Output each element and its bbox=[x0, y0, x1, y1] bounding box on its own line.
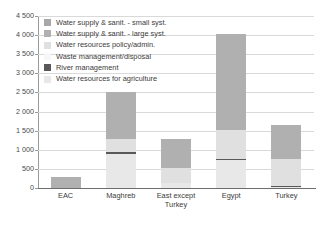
y-axis-tick-label: 3 500 bbox=[0, 50, 34, 57]
stacked-bar-chart: 05001 0001 5002 0002 5003 0003 5004 0004… bbox=[0, 0, 329, 225]
chart-legend: Water supply & sanit. - small syst.Water… bbox=[44, 17, 167, 85]
legend-item-label: Water supply & sanit. - large syst. bbox=[56, 30, 166, 38]
y-axis-tick-label: 2 500 bbox=[0, 88, 34, 95]
y-axis-tick-label: 3 000 bbox=[0, 69, 34, 76]
legend-swatch-icon bbox=[44, 53, 51, 60]
y-axis-tick-label: 1 000 bbox=[0, 146, 34, 153]
legend-item-label: Water resources policy/admin. bbox=[56, 41, 155, 49]
x-axis-category-label: East exceptTurkey bbox=[148, 191, 203, 209]
bar-segment bbox=[106, 139, 136, 151]
legend-item-label: Water resources for agriculture bbox=[56, 75, 157, 83]
y-axis-tick-label: 4 500 bbox=[0, 12, 34, 19]
bar-stack[interactable] bbox=[216, 16, 246, 188]
bar-segment bbox=[216, 130, 246, 159]
x-axis-category-label: Egypt bbox=[204, 191, 259, 200]
bar-segment bbox=[106, 92, 136, 139]
legend-item[interactable]: River management bbox=[44, 62, 167, 73]
x-axis-label-line: Maghreb bbox=[93, 191, 148, 200]
y-axis-labels: 05001 0001 5002 0002 5003 0003 5004 0004… bbox=[0, 16, 34, 188]
bar-stack[interactable] bbox=[271, 16, 301, 188]
bar-group bbox=[259, 16, 314, 188]
y-axis-tick-label: 0 bbox=[0, 184, 34, 191]
x-axis-label-line: EAC bbox=[38, 191, 93, 200]
x-axis-label-line: East except bbox=[148, 191, 203, 200]
x-axis-label-line: Egypt bbox=[204, 191, 259, 200]
legend-swatch-icon bbox=[44, 76, 51, 83]
y-axis-tick-label: 1 500 bbox=[0, 127, 34, 134]
bar-segment bbox=[106, 154, 136, 188]
legend-item[interactable]: Water resources policy/admin. bbox=[44, 40, 167, 51]
legend-swatch-icon bbox=[44, 64, 51, 71]
legend-item-label: River management bbox=[56, 64, 118, 72]
x-axis-line bbox=[38, 188, 316, 189]
bar-segment bbox=[216, 34, 246, 130]
legend-item[interactable]: Water supply & sanit. - large syst. bbox=[44, 28, 167, 39]
y-axis-tick-label: 4 000 bbox=[0, 31, 34, 38]
x-axis-label-line: Turkey bbox=[259, 191, 314, 200]
bar-segment bbox=[161, 168, 191, 183]
bar-segment bbox=[106, 152, 136, 155]
legend-item[interactable]: Waste management/disposal bbox=[44, 51, 167, 62]
y-axis-tick-label: 2 000 bbox=[0, 108, 34, 115]
bar-segment bbox=[216, 160, 246, 188]
x-axis-category-label: EAC bbox=[38, 191, 93, 200]
bar-group bbox=[204, 16, 259, 188]
x-axis-label-line: Turkey bbox=[148, 200, 203, 209]
legend-swatch-icon bbox=[44, 19, 51, 26]
legend-item-label: Waste management/disposal bbox=[56, 53, 151, 61]
legend-item[interactable]: Water resources for agriculture bbox=[44, 73, 167, 84]
x-axis-category-label: Maghreb bbox=[93, 191, 148, 200]
bar-segment bbox=[161, 139, 191, 168]
bar-segment bbox=[51, 177, 81, 188]
bar-segment bbox=[216, 159, 246, 161]
x-axis-labels: EACMaghrebEast exceptTurkeyEgyptTurkey bbox=[38, 191, 314, 221]
bar-segment bbox=[271, 159, 301, 186]
bar-segment bbox=[271, 125, 301, 159]
legend-swatch-icon bbox=[44, 42, 51, 49]
legend-item[interactable]: Water supply & sanit. - small syst. bbox=[44, 17, 167, 28]
y-axis-tick-label: 500 bbox=[0, 165, 34, 172]
x-axis-category-label: Turkey bbox=[259, 191, 314, 200]
legend-item-label: Water supply & sanit. - small syst. bbox=[56, 19, 167, 27]
legend-swatch-icon bbox=[44, 30, 51, 37]
